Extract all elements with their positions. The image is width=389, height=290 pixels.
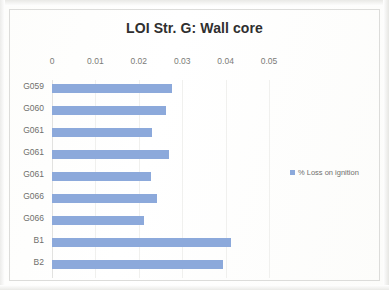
chart-title: LOI Str. G: Wall core [0,20,389,36]
page-edge-right [383,0,389,290]
page-edge-left [0,0,5,290]
bar-row: G061 [52,168,269,190]
bar-row: G061 [52,124,269,146]
category-label: G061 [23,125,44,135]
category-label: G066 [23,191,44,201]
bar[interactable] [52,216,144,225]
bar-row: G061 [52,146,269,168]
x-tick-label: 0.05 [261,56,278,66]
bar-rows: G059G060G061G061G061G066G066B1B2 [52,80,269,278]
plot-area: G059G060G061G061G061G066G066B1B2 [52,80,269,278]
x-tick-label: 0.03 [174,56,191,66]
bar[interactable] [52,238,231,247]
bar-row: G066 [52,190,269,212]
category-label: B2 [34,257,44,267]
bar[interactable] [52,106,166,115]
bar-row: B1 [52,234,269,256]
category-label: B1 [34,235,44,245]
page-edge-bottom [0,285,389,290]
category-label: G061 [23,169,44,179]
category-label: G061 [23,147,44,157]
bar-row: B2 [52,256,269,278]
gridline [269,80,270,278]
bar-row: G060 [52,102,269,124]
bar[interactable] [52,84,172,93]
x-axis-tick-labels: 00.010.020.030.040.05 [0,56,389,70]
chart-container: LOI Str. G: Wall core 00.010.020.030.040… [0,0,389,290]
x-tick-label: 0.04 [217,56,234,66]
legend-swatch-icon [290,170,295,175]
bar[interactable] [52,260,223,269]
category-label: G066 [23,213,44,223]
bar[interactable] [52,172,151,181]
category-label: G060 [23,103,44,113]
legend-label: % Loss on ignition [298,168,359,177]
category-label: G059 [23,81,44,91]
bar[interactable] [52,128,152,137]
x-tick-label: 0.01 [87,56,104,66]
bar-row: G059 [52,80,269,102]
bar[interactable] [52,194,157,203]
x-tick-label: 0.02 [131,56,148,66]
bar-row: G066 [52,212,269,234]
page-edge-top [0,0,389,6]
bar[interactable] [52,150,169,159]
x-tick-label: 0 [50,56,55,66]
chart-legend: % Loss on ignition [290,168,359,177]
